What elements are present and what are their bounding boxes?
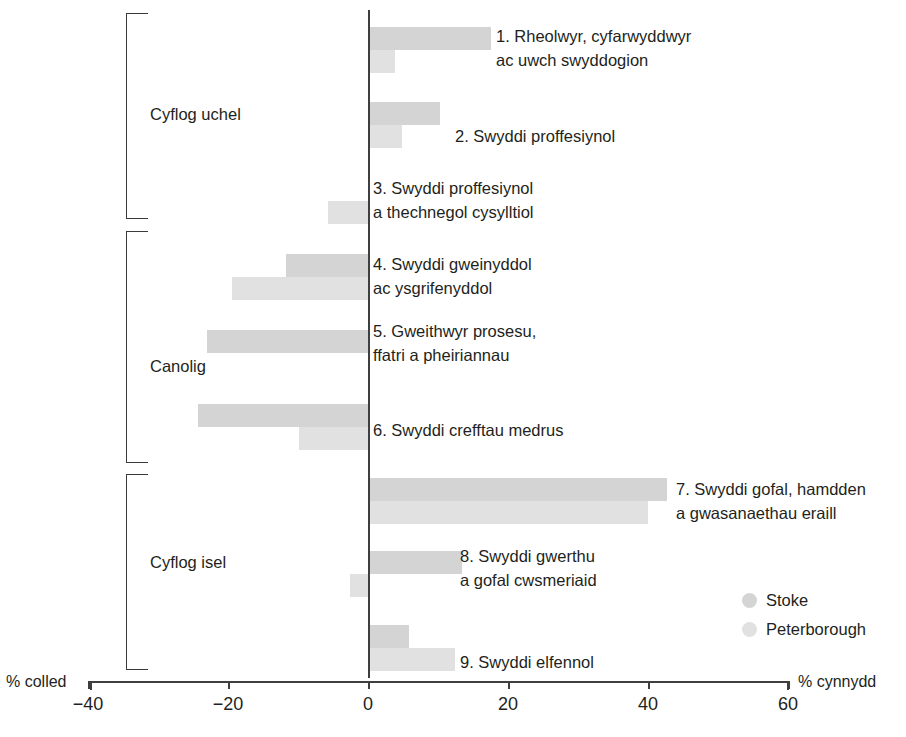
group-bracket-high-pay (126, 13, 148, 219)
bar-label-3: 3. Swyddi proffesiynola thechnegol cysyl… (373, 176, 534, 224)
bar-peterborough-2 (368, 125, 402, 148)
x-tick-label: 60 (778, 694, 798, 715)
bar-label-6: 6. Swyddi crefftau medrus (373, 418, 563, 442)
bar-stoke-1 (368, 27, 491, 50)
legend-swatch-circle-icon (742, 622, 757, 637)
zero-axis-line (368, 10, 370, 678)
group-label-low-pay: Cyflog isel (150, 553, 226, 572)
legend: Stoke Peterborough (742, 586, 866, 644)
bar-peterborough-4 (232, 277, 368, 300)
bar-label-line: 8. Swyddi gwerthu (460, 544, 597, 568)
x-tick-label: 20 (498, 694, 518, 715)
legend-item-stoke: Stoke (742, 586, 866, 615)
x-tick (508, 681, 510, 689)
bar-label-line: ffatri a pheiriannau (373, 343, 536, 367)
group-bracket-low-pay (126, 474, 148, 670)
bar-label-line: 2. Swyddi proffesiynol (455, 124, 615, 148)
bar-peterborough-3 (328, 201, 368, 224)
bar-label-line: 4. Swyddi gweinyddol (373, 252, 532, 276)
bar-label-line: 3. Swyddi proffesiynol (373, 176, 534, 200)
x-tick (228, 681, 230, 689)
bar-label-8: 8. Swyddi gwerthua gofal cwsmeriaid (460, 544, 597, 592)
legend-swatch-circle-icon (742, 593, 757, 608)
bar-peterborough-7 (368, 501, 648, 524)
bar-peterborough-9 (368, 648, 455, 671)
bar-label-line: a thechnegol cysylltiol (373, 200, 534, 224)
bar-label-line: 9. Swyddi elfennol (460, 650, 594, 674)
bar-peterborough-1 (368, 50, 395, 73)
axis-label-loss: % colled (6, 673, 66, 691)
bar-label-line: a gwasanaethau eraill (676, 501, 866, 525)
bar-label-2: 2. Swyddi proffesiynol (455, 124, 615, 148)
legend-label-stoke: Stoke (766, 591, 808, 610)
bar-stoke-5 (207, 330, 368, 353)
axis-label-gain: % cynnydd (798, 673, 876, 691)
x-tick-label: 40 (638, 694, 658, 715)
bar-label-9: 9. Swyddi elfennol (460, 650, 594, 674)
x-tick (648, 681, 650, 689)
bar-label-7: 7. Swyddi gofal, hamddena gwasanaethau e… (676, 477, 866, 525)
horizontal-bar-chart: Cyflog uchel Canolig Cyflog isel 1. Rheo… (0, 0, 906, 737)
bar-stoke-8 (368, 551, 462, 574)
bar-label-line: 6. Swyddi crefftau medrus (373, 418, 563, 442)
bar-stoke-2 (368, 102, 440, 125)
group-label-high-pay: Cyflog uchel (150, 105, 241, 124)
legend-label-peterborough: Peterborough (766, 620, 866, 639)
group-label-middle: Canolig (150, 357, 206, 376)
x-tick-label: −40 (73, 694, 104, 715)
bar-label-line: ac uwch swyddogion (496, 48, 691, 72)
group-bracket-middle (126, 231, 148, 463)
bar-label-line: a gofal cwsmeriaid (460, 568, 597, 592)
bar-label-line: 7. Swyddi gofal, hamdden (676, 477, 866, 501)
x-tick-label: 0 (363, 694, 373, 715)
x-tick (368, 681, 370, 689)
x-axis-left-cap (90, 681, 92, 690)
bar-label-line: ac ysgrifenyddol (373, 276, 532, 300)
bar-peterborough-8 (350, 574, 368, 597)
legend-item-peterborough: Peterborough (742, 615, 866, 644)
bar-stoke-6 (198, 404, 368, 427)
bar-stoke-9 (368, 625, 409, 648)
x-axis-line (90, 681, 788, 683)
bar-label-5: 5. Gweithwyr prosesu,ffatri a pheirianna… (373, 319, 536, 367)
bar-label-1: 1. Rheolwyr, cyfarwyddwyrac uwch swyddog… (496, 24, 691, 72)
bar-label-line: 5. Gweithwyr prosesu, (373, 319, 536, 343)
x-tick-label: −20 (213, 694, 244, 715)
x-tick (788, 681, 790, 689)
bar-peterborough-6 (299, 427, 368, 450)
bar-stoke-7 (368, 478, 667, 501)
bar-label-4: 4. Swyddi gweinyddolac ysgrifenyddol (373, 252, 532, 300)
bar-label-line: 1. Rheolwyr, cyfarwyddwyr (496, 24, 691, 48)
x-tick (88, 681, 90, 689)
bar-stoke-4 (286, 254, 368, 277)
